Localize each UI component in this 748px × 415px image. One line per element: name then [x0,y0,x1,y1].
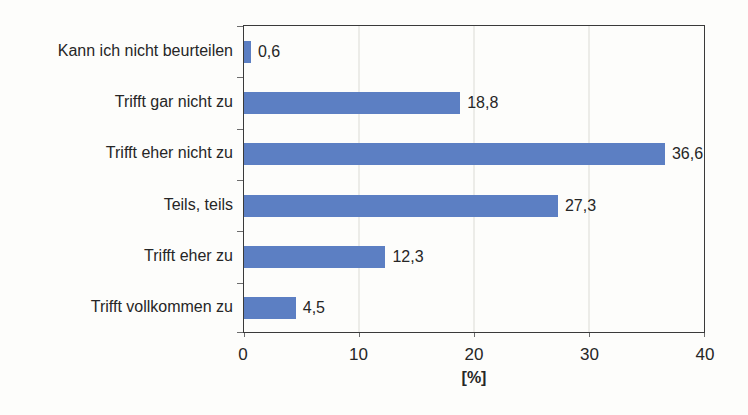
category-label: Kann ich nicht beurteilen [0,25,233,76]
bar-value-label: 18,8 [467,95,498,111]
bar-row: 0,6 [244,26,704,77]
bar-value-label: 4,5 [303,300,325,316]
bar [244,195,558,217]
value-axis-tick [704,333,705,337]
category-label: Trifft vollkommen zu [0,282,233,333]
category-axis-tick [237,332,243,333]
category-axis-tick [237,283,243,284]
value-axis-tick-label: 30 [580,345,599,365]
bar-row: 12,3 [244,231,704,282]
value-axis-tick [589,333,590,337]
bar [244,143,665,165]
category-label: Trifft eher zu [0,230,233,281]
category-axis-tick [237,231,243,232]
value-axis-tick [474,333,475,337]
category-label: Trifft gar nicht zu [0,76,233,127]
plot-area: 0,618,836,627,312,34,5 [243,25,705,333]
value-axis-tick-label: 0 [238,345,247,365]
value-axis-tick-label: 40 [696,345,715,365]
value-axis-tick-label: 20 [465,345,484,365]
value-axis-tick [359,333,360,337]
category-axis-tick [237,77,243,78]
category-axis-tick [237,129,243,130]
category-axis-tick [237,180,243,181]
category-label: Teils, teils [0,179,233,230]
category-axis-tick [237,26,243,27]
bar-row: 18,8 [244,77,704,128]
x-axis-title: [%] [243,369,705,387]
bar [244,92,460,114]
bar [244,297,296,319]
category-label: Trifft eher nicht zu [0,128,233,179]
bar-value-label: 36,6 [672,146,703,162]
bar-row: 27,3 [244,180,704,231]
bar-row: 4,5 [244,283,704,334]
value-axis-tick-label: 10 [349,345,368,365]
bar [244,246,385,268]
bar-value-label: 0,6 [258,44,280,60]
value-axis-tick [244,333,245,337]
bar-row: 36,6 [244,129,704,180]
bar-value-label: 27,3 [565,198,596,214]
bar [244,41,251,63]
bar-value-label: 12,3 [392,249,423,265]
chart-canvas: 0,618,836,627,312,34,5 Kann ich nicht be… [0,0,748,415]
